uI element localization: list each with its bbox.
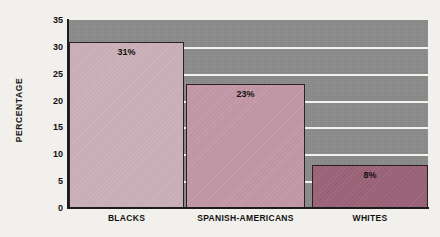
bar-value-label: 8% [313, 170, 427, 180]
x-label-whites: WHITES [312, 213, 428, 223]
y-axis-line [67, 19, 69, 209]
bar-value-label: 23% [187, 89, 304, 99]
bars-layer: 31% 23% 8% [69, 20, 428, 208]
y-axis-title: PERCENTAGE [14, 50, 24, 170]
bar-chart: PERCENTAGE 35 30 25 20 15 10 5 0 31% 23%… [0, 0, 440, 237]
bar-texture [70, 43, 183, 208]
y-tick-label: 15 [30, 123, 63, 132]
y-tick-label: 5 [30, 177, 63, 186]
y-tick-label: 20 [30, 96, 63, 105]
y-tick-label: 0 [30, 204, 63, 213]
y-tick-label: 25 [30, 69, 63, 78]
bar-spanish-americans[interactable]: 23% [186, 84, 305, 208]
x-label-spanish-americans: SPANISH-AMERICANS [186, 213, 305, 223]
bar-whites[interactable]: 8% [312, 165, 428, 208]
bar-value-label: 31% [70, 47, 183, 57]
x-axis-category-labels: BLACKS SPANISH-AMERICANS WHITES [69, 213, 428, 233]
x-axis-line [67, 207, 429, 209]
y-tick-label: 30 [30, 42, 63, 51]
bar-blacks[interactable]: 31% [69, 42, 184, 209]
y-tick-label: 35 [30, 16, 63, 25]
y-tick-label: 10 [30, 150, 63, 159]
x-label-blacks: BLACKS [69, 213, 184, 223]
y-axis-tick-labels: 35 30 25 20 15 10 5 0 [30, 20, 63, 208]
bar-texture [187, 85, 304, 207]
